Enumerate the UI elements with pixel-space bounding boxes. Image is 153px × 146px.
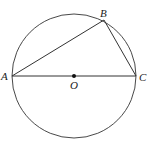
geometry-diagram: A B C O xyxy=(0,0,153,146)
label-c: C xyxy=(139,71,147,83)
center-point-o xyxy=(72,74,76,78)
label-a: A xyxy=(0,70,8,82)
segment-ab xyxy=(12,20,104,76)
segment-bc xyxy=(104,20,136,76)
label-o: O xyxy=(70,79,78,91)
label-b: B xyxy=(100,7,107,19)
